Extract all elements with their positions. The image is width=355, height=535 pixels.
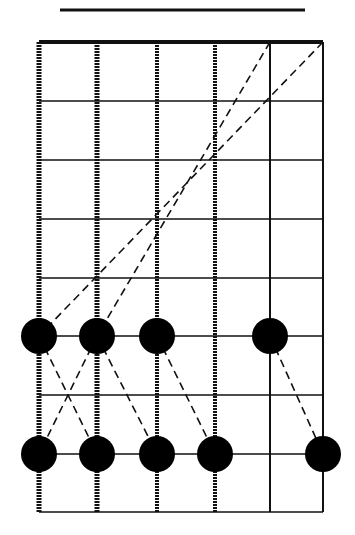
dashed-connection [97, 42, 270, 336]
note-dot [252, 318, 288, 354]
fret-lines [39, 42, 323, 512]
note-dot [305, 436, 341, 472]
note-dot [79, 436, 115, 472]
note-dot [139, 318, 175, 354]
note-dot [79, 318, 115, 354]
note-dot [197, 436, 233, 472]
fretboard-diagram [0, 0, 355, 535]
note-dot [21, 318, 57, 354]
dashed-connection [39, 42, 323, 336]
note-dot [21, 436, 57, 472]
note-dot [139, 436, 175, 472]
string-lines [39, 42, 323, 512]
dashed-connections [39, 42, 323, 454]
